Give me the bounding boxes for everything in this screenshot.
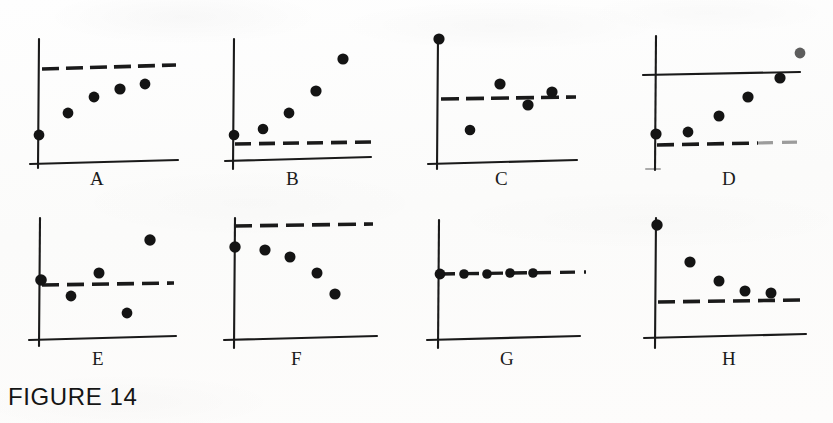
panel-h-reference-line [658,300,801,302]
panel-b-x-axis [225,157,371,161]
panel-c-data-point [522,99,533,110]
panel-f-reference-line [234,224,373,226]
panel-e-x-axis [29,336,176,340]
panel-d-data-point [714,111,725,122]
panel-c-data-point [546,86,557,97]
panel-label-f: F [291,348,302,370]
panel-label-a: A [90,168,104,190]
panel-g-data-point [435,269,446,280]
panel-d-reference-line [657,143,758,145]
panel-c-x-axis [428,160,577,164]
panel-h-data-point [684,256,695,267]
panel-d [640,28,815,176]
panel-g-data-point [482,269,492,279]
panel-e-data-point [66,291,77,302]
panel-f [221,212,391,352]
panel-h-data-point [740,286,751,297]
panel-e-data-point [94,268,105,279]
panel-a-x-axis [30,160,178,164]
panel-d-data-point [742,91,753,102]
panel-e-data-point [122,308,133,319]
panel-d-reference-line-fade [758,142,803,143]
panel-e [26,212,191,352]
panel-f-data-point [329,288,340,299]
panel-d-data-point-faint [795,48,806,59]
panel-f-data-point [312,268,323,279]
panel-f-y-axis [234,218,235,348]
panel-c-data-point [433,33,444,44]
panel-c [424,28,589,176]
panel-h-data-point [651,219,662,230]
panel-f-data-point [285,252,296,263]
panel-g-x-axis [427,336,580,340]
panel-h-data-point [766,288,777,299]
panel-c-reference-line [441,97,576,99]
panel-label-d: D [722,168,736,190]
panel-a-data-point [63,108,74,119]
panel-c-data-point [494,78,505,89]
figure-caption: FIGURE 14 [8,383,137,411]
panel-a-reference-line [42,65,176,69]
panel-d-data-point [683,127,694,138]
panel-g-data-point [459,269,469,279]
panel-f-data-point [259,244,270,255]
panel-a-data-point [114,83,125,94]
panel-b-data-point [258,124,269,135]
panel-d-data-point [650,128,661,139]
panel-a-data-point [89,92,100,103]
panel-b-reference-line [235,142,371,144]
panel-g-y-axis [438,220,439,348]
panel-a-y-axis [38,39,39,168]
panel-g [424,212,599,352]
panel-h-x-axis [644,334,806,338]
panel-label-c: C [495,168,508,190]
panel-label-g: G [500,348,514,370]
panel-f-x-axis [224,336,377,340]
panel-d-y-axis [655,36,656,170]
panel-label-h: H [722,348,736,370]
panel-e-data-point [35,274,47,286]
panel-f-data-point [229,241,240,252]
panel-g-data-point [505,268,515,278]
panel-c-y-axis [437,36,438,169]
panel-a [26,34,186,174]
panel-a-data-point [140,79,151,90]
panel-b-y-axis [233,39,234,169]
panel-a-data-point [34,130,45,141]
panel-label-e: E [92,348,104,370]
panel-e-reference-line [42,283,174,285]
panel-g-data-point [528,268,538,278]
panel-c-data-point [465,125,476,136]
panel-b-data-point [229,130,240,141]
panel-h-data-point [714,276,725,287]
panel-h [640,212,815,352]
panel-e-data-point [144,234,155,245]
panel-label-b: B [286,168,299,190]
panel-d-data-point [774,72,785,83]
panel-b-data-point [310,85,321,96]
panel-b-data-point [284,108,295,119]
figure-14-container: A B C [0,0,833,423]
panel-b [221,34,381,174]
panel-b-data-point [337,53,348,64]
panel-h-y-axis [655,218,656,348]
